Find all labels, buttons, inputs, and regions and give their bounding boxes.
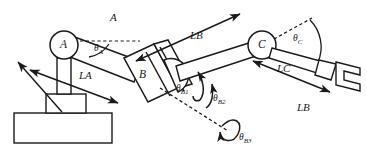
base-plate	[14, 113, 112, 143]
base-riser	[46, 94, 86, 113]
link-lb-body	[176, 42, 256, 81]
angle-label-theta-c: θC	[293, 34, 302, 44]
joint-label-c: C	[258, 39, 266, 51]
theta-b1-subscript: B1	[181, 88, 189, 96]
joint-label-b: B	[139, 69, 146, 81]
pedestal-base	[14, 58, 112, 143]
angle-label-theta-b1: θB1	[176, 84, 188, 94]
diagram-canvas	[0, 0, 367, 156]
theta-b2-subscript: B2	[218, 98, 226, 106]
axis-label-a: A	[110, 12, 117, 23]
angle-label-theta-a: θA	[94, 44, 103, 54]
link-label-lb-lower: LB	[297, 102, 310, 113]
link-label-la: LA	[79, 70, 92, 81]
angle-arc-c	[310, 20, 321, 62]
joint-label-a: A	[60, 39, 67, 51]
rotation-indicator-b3	[220, 120, 240, 141]
angle-label-theta-b2: θB2	[213, 94, 225, 104]
rotation-arrow-a-base	[18, 62, 62, 112]
angle-label-theta-b3: θB3	[239, 133, 251, 143]
link-label-lc: LC	[277, 63, 290, 74]
link-label-lb-upper: LB	[190, 30, 203, 41]
theta-c-subscript: C	[298, 38, 303, 46]
rotation-indicator-b2	[206, 84, 213, 108]
base-column	[57, 58, 71, 94]
gripper-icon	[315, 60, 360, 91]
theta-a-subscript: A	[99, 48, 103, 56]
robot-arm-diagram: A B C A LB LA LC LB θA θC θB1 θB2 θB3	[0, 0, 367, 156]
theta-b3-subscript: B3	[244, 137, 252, 145]
